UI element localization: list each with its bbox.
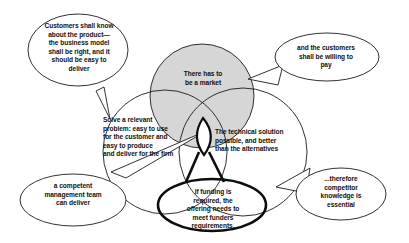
lens-leg-left <box>186 152 199 182</box>
callout-customers-know-tail <box>96 87 110 119</box>
funding-ellipse-shape[interactable] <box>158 179 266 231</box>
callout-customers-know-bubble[interactable] <box>28 14 128 86</box>
callout-willing-to-pay-tail <box>248 65 283 85</box>
venn-diagram-figure: There has to be a market Solve a relevan… <box>0 0 409 243</box>
callout-management-team-bubble[interactable] <box>20 174 126 226</box>
callout-willing-to-pay-bubble[interactable] <box>275 33 379 81</box>
diagram-canvas <box>0 0 409 243</box>
callout-competitor-knowledge-bubble[interactable] <box>296 168 386 220</box>
lens-leg-right <box>209 152 224 182</box>
